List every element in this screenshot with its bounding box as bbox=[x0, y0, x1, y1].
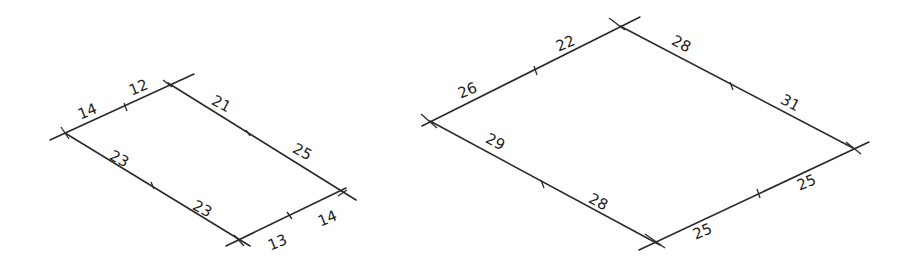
segment-label: 25 bbox=[690, 219, 714, 243]
segment-label: 14 bbox=[315, 206, 339, 230]
segment-label: 13 bbox=[265, 230, 289, 254]
segment-label: 25 bbox=[794, 170, 818, 194]
edge-top-right bbox=[620, 26, 853, 148]
segment-label: 23 bbox=[107, 146, 132, 171]
edge-bottom-left bbox=[430, 121, 660, 245]
midpoint-tick bbox=[730, 82, 733, 90]
segment-label: 21 bbox=[209, 91, 234, 116]
edge-top-left bbox=[50, 74, 194, 140]
small-parallelogram: 14 12 21 25 23 23 13 14 bbox=[50, 74, 356, 254]
segment-label: 28 bbox=[586, 189, 611, 214]
segment-label: 22 bbox=[553, 31, 577, 55]
large-parallelogram: 26 22 28 31 29 28 25 25 bbox=[421, 17, 869, 250]
segment-label: 23 bbox=[190, 196, 215, 221]
corner-tick bbox=[61, 127, 69, 139]
edge-bottom-left bbox=[65, 133, 250, 246]
edge-top-right bbox=[168, 83, 356, 200]
diagram-canvas: 14 12 21 25 23 23 13 14 26 22 28 31 29 2… bbox=[0, 0, 914, 265]
edge-top-left bbox=[422, 17, 640, 126]
segment-label: 28 bbox=[669, 31, 694, 56]
segment-label: 29 bbox=[483, 129, 508, 154]
edge-bottom-right bbox=[639, 142, 869, 250]
